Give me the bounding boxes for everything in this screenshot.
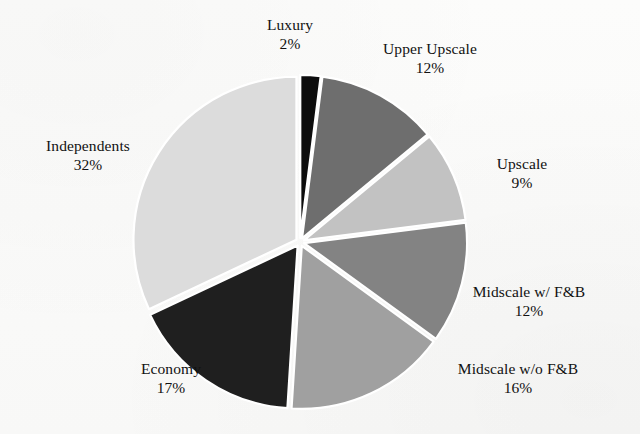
slice-label-midscale-with-fb-value: 12% — [473, 302, 586, 321]
slice-label-upscale-name: Upscale — [497, 155, 548, 174]
slice-label-upscale-value: 9% — [497, 174, 548, 193]
slice-label-upper-upscale-name: Upper Upscale — [383, 40, 477, 59]
pie-slice-group: Luxury 2%Upper Upscale 12%Upscale 9%Mids… — [133, 75, 467, 409]
slice-label-economy-value: 17% — [141, 379, 201, 398]
slice-label-independents: Independents 32% — [46, 137, 130, 175]
slice-label-midscale-without-fb-value: 16% — [458, 379, 578, 398]
slice-label-midscale-with-fb-name: Midscale w/ F&B — [473, 283, 586, 302]
slice-label-upper-upscale-value: 12% — [383, 59, 477, 78]
slice-label-midscale-with-fb: Midscale w/ F&B 12% — [473, 283, 586, 321]
slice-label-upscale: Upscale 9% — [497, 155, 548, 193]
slice-label-luxury: Luxury 2% — [267, 16, 313, 54]
slice-label-upper-upscale: Upper Upscale 12% — [383, 40, 477, 78]
slice-label-luxury-value: 2% — [267, 35, 313, 54]
slice-label-economy: Economy 17% — [141, 360, 201, 398]
slice-label-independents-name: Independents — [46, 137, 130, 156]
slice-label-independents-value: 32% — [46, 156, 130, 175]
slice-label-midscale-without-fb-name: Midscale w/o F&B — [458, 360, 578, 379]
slice-label-midscale-without-fb: Midscale w/o F&B 16% — [458, 360, 578, 398]
slice-label-luxury-name: Luxury — [267, 16, 313, 35]
pie-chart-figure: Luxury 2%Upper Upscale 12%Upscale 9%Mids… — [0, 0, 640, 434]
slice-label-economy-name: Economy — [141, 360, 201, 379]
